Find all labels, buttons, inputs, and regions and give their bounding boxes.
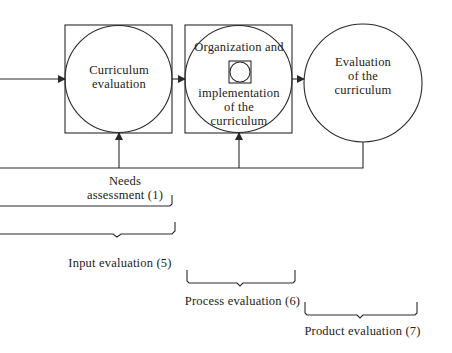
product-bracket [305, 302, 417, 318]
process-evaluation-label: Process evaluation (6) [180, 294, 305, 308]
node-organization-rest: implementation of the curriculum [185, 86, 293, 128]
node-evaluation-of-curriculum: Evaluation of the curriculum [318, 55, 408, 97]
label: assessment (1) [70, 188, 180, 202]
label: of the [185, 100, 293, 114]
label: curriculum [185, 114, 293, 128]
label: Evaluation [318, 55, 408, 69]
label: Needs [70, 174, 180, 188]
needs-assessment-label: Needs assessment (1) [70, 174, 180, 202]
label: Organization and [185, 40, 293, 54]
small-box-icon [229, 61, 251, 83]
input-bracket [0, 222, 175, 237]
label: evaluation [84, 77, 154, 91]
process-bracket [187, 270, 295, 286]
node-organization: Organization and [185, 40, 293, 54]
node-curriculum-evaluation: Curriculum evaluation [84, 63, 154, 91]
label: implementation [185, 86, 293, 100]
label: Curriculum [84, 63, 154, 77]
product-evaluation-label: Product evaluation (7) [300, 324, 425, 338]
input-evaluation-label: Input evaluation (5) [60, 256, 180, 270]
feedback-line [0, 142, 363, 168]
curriculum-evaluation-diagram: Curriculum evaluation Organization and i… [0, 0, 452, 353]
label: curriculum [318, 83, 408, 97]
label: of the [318, 69, 408, 83]
